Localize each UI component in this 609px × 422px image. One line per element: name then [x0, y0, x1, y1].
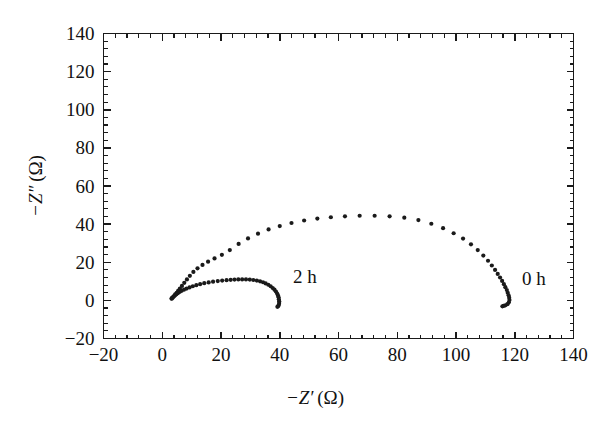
data-point: [452, 231, 456, 235]
y-tick-label: 120: [66, 61, 95, 82]
data-point: [388, 214, 392, 218]
data-point: [237, 242, 241, 246]
data-point: [228, 248, 232, 252]
data-point: [461, 237, 465, 241]
data-point: [275, 305, 279, 309]
data-point: [202, 281, 206, 285]
data-point: [246, 236, 250, 240]
data-point: [224, 278, 228, 282]
data-point: [232, 277, 236, 281]
data-point: [429, 222, 433, 226]
data-point: [481, 253, 485, 257]
y-tick-label: 100: [66, 99, 95, 120]
x-tick-label: 100: [442, 344, 471, 365]
data-point: [329, 215, 333, 219]
data-point: [476, 248, 480, 252]
data-point: [256, 232, 260, 236]
x-tick-label: 40: [270, 344, 289, 365]
x-tick-label: 60: [329, 344, 348, 365]
impedance-nyquist-chart: −20020406080100120140 −20020406080100120…: [0, 0, 609, 422]
data-point: [211, 280, 215, 284]
data-point: [402, 216, 406, 220]
data-point: [496, 272, 500, 276]
data-point: [188, 274, 192, 278]
data-point: [198, 282, 202, 286]
data-point: [278, 224, 282, 228]
data-point: [240, 277, 244, 281]
data-point: [373, 214, 377, 218]
data-point: [469, 242, 473, 246]
data-point: [229, 278, 233, 282]
data-point: [302, 218, 306, 222]
data-point: [206, 260, 210, 264]
data-point: [191, 270, 195, 274]
data-point: [486, 259, 490, 263]
x-axis-title: −Z′ (Ω): [286, 387, 344, 409]
x-tick-label: 0: [158, 344, 168, 365]
series-label-2-h: 2 h: [293, 266, 317, 287]
data-point: [358, 214, 362, 218]
nyquist-plot-figure: −20020406080100120140 −20020406080100120…: [0, 0, 609, 422]
data-point: [490, 263, 494, 267]
data-point: [220, 278, 224, 282]
data-point: [200, 263, 204, 267]
data-point: [236, 277, 240, 281]
data-point: [182, 281, 186, 285]
x-tick-label: 140: [559, 344, 588, 365]
data-point: [266, 227, 270, 231]
data-point: [315, 216, 319, 220]
x-axis-tick-labels: −20020406080100120140: [89, 344, 588, 365]
data-point: [207, 280, 211, 284]
y-tick-label: 0: [85, 290, 95, 311]
data-point: [441, 226, 445, 230]
x-tick-label: 20: [212, 344, 231, 365]
data-point: [212, 256, 216, 260]
y-axis-title: −Z″ (Ω): [25, 155, 47, 217]
y-tick-label: 60: [76, 176, 95, 197]
data-point: [289, 221, 293, 225]
data-point: [343, 214, 347, 218]
data-point: [416, 218, 420, 222]
data-point: [493, 268, 497, 272]
y-tick-label: −20: [65, 328, 95, 349]
data-point: [244, 277, 248, 281]
y-tick-label: 80: [76, 137, 95, 158]
x-tick-label: 80: [388, 344, 407, 365]
x-tick-label: 120: [501, 344, 530, 365]
data-point: [185, 277, 189, 281]
series-label-0-h: 0 h: [522, 268, 546, 289]
data-point: [194, 283, 198, 287]
data-point: [220, 253, 224, 257]
y-tick-label: 40: [76, 214, 95, 235]
data-point: [500, 304, 504, 308]
data-point: [251, 278, 255, 282]
y-tick-label: 20: [76, 252, 95, 273]
data-point: [216, 279, 220, 283]
y-tick-label: 140: [66, 23, 95, 44]
data-point: [195, 266, 199, 270]
